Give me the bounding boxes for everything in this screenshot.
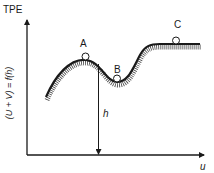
point-label-a: A	[80, 39, 87, 49]
energy-curve	[46, 44, 200, 97]
point-label-b: B	[114, 65, 121, 75]
ball-a-icon	[82, 53, 89, 60]
y-axis-title: TPE	[3, 5, 22, 15]
ball-c-icon	[173, 37, 180, 44]
x-axis-label: u	[200, 162, 206, 172]
height-label: h	[103, 109, 109, 119]
energy-diagram	[0, 0, 214, 173]
curve-hatching	[47, 47, 201, 100]
y-axis-label: (U + V) = f(h)	[5, 53, 14, 133]
ball-b-icon	[114, 75, 121, 82]
point-label-c: C	[174, 20, 181, 30]
